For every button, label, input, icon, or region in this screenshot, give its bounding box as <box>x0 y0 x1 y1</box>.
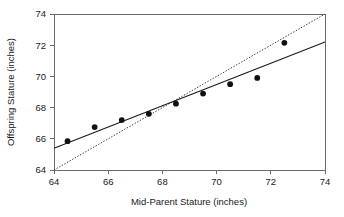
y-tick-label: 66 <box>35 133 46 144</box>
data-point <box>119 117 125 123</box>
data-point <box>65 138 71 144</box>
data-point <box>254 75 260 81</box>
y-tick-label: 68 <box>35 102 46 113</box>
data-point <box>200 91 206 97</box>
data-point <box>227 81 233 87</box>
y-axis-title: Offspring Stature (inches) <box>5 38 16 146</box>
data-point <box>92 124 98 130</box>
x-tick-label: 74 <box>320 176 331 187</box>
data-point <box>146 111 152 117</box>
y-tick-label: 64 <box>35 164 46 175</box>
y-tick-label: 72 <box>35 40 46 51</box>
x-tick-label: 70 <box>211 176 222 187</box>
plot-canvas: 646668707274 646668707274 Mid-Parent Sta… <box>0 0 344 217</box>
x-tick-label: 72 <box>266 176 277 187</box>
x-axis-title: Mid-Parent Stature (inches) <box>131 196 247 207</box>
y-tick-label: 74 <box>35 8 46 19</box>
x-tick-label: 68 <box>157 176 168 187</box>
data-point <box>281 40 287 46</box>
scatter-plot-figure: 646668707274 646668707274 Mid-Parent Sta… <box>0 0 344 217</box>
data-point <box>173 101 179 107</box>
y-tick-label: 70 <box>35 71 46 82</box>
x-tick-label: 64 <box>49 176 60 187</box>
x-tick-label: 66 <box>103 176 114 187</box>
